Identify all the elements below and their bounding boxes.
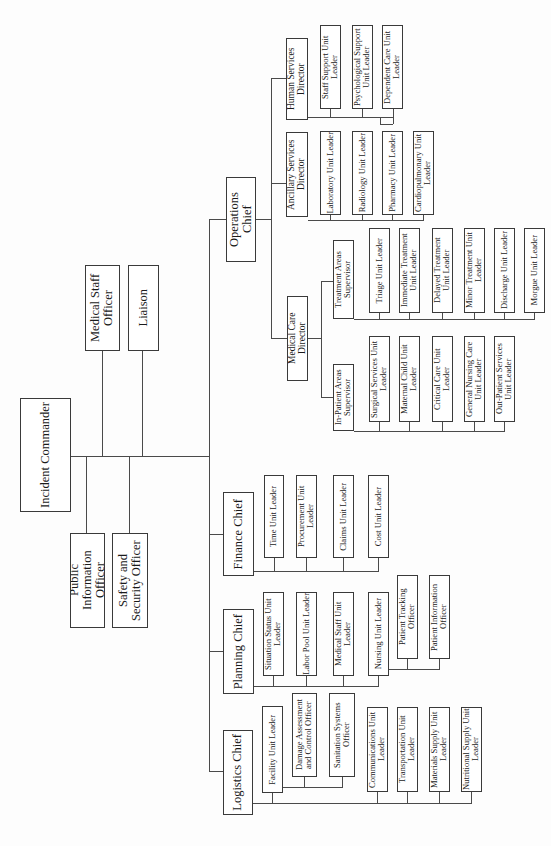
medical-care-director-box: Medical Care Director — [287, 296, 308, 381]
connector-line — [380, 124, 393, 125]
box-label: Discharge Unit Leader — [500, 231, 509, 309]
box-label: Psychological Support Unit Leader — [353, 26, 371, 108]
safety-security-officer-box: Safety and Security Officer — [112, 533, 148, 628]
in-patient-areas-supervisor-box: In-Patient Areas Supervisor — [333, 364, 354, 431]
connector-line — [380, 117, 381, 124]
connector-line — [321, 397, 333, 398]
connector-line — [354, 319, 535, 320]
box-label: Critical Care Unit Leader — [433, 337, 451, 421]
box-label: Liaison — [137, 289, 150, 327]
connector-line — [534, 313, 535, 319]
connector-line — [474, 313, 475, 319]
connector-line — [308, 220, 424, 221]
connector-line — [393, 109, 394, 124]
immediate-treatment-unit-box: Immediate Treatment Unit Leader — [399, 228, 420, 313]
connector-line — [407, 792, 408, 803]
claims-unit-box: Claims Unit Leader — [333, 475, 354, 558]
liaison-box: Liaison — [128, 265, 159, 351]
box-label: Planning Chief — [232, 614, 245, 689]
box-label: Surgical Services Unit Leader — [370, 337, 388, 421]
box-label: Patient Information Officer — [430, 576, 448, 658]
connector-line — [86, 456, 87, 533]
connector-line — [330, 109, 331, 117]
box-label: Human Services Director — [287, 39, 307, 119]
connector-line — [271, 78, 286, 79]
general-nursing-care-unit-box: General Nursing Care Unit Leader — [464, 336, 485, 422]
connector-line — [378, 558, 379, 571]
connector-line — [271, 183, 286, 184]
patient-information-officer-box: Patient Information Officer — [429, 575, 450, 659]
box-label: Maternal Child Unit Leader — [400, 337, 418, 421]
box-label: Pharmacy Unit Leader — [388, 134, 397, 212]
connector-line — [306, 676, 307, 686]
connector-line — [379, 422, 380, 431]
connector-line — [407, 659, 408, 669]
pharmacy-unit-box: Pharmacy Unit Leader — [382, 131, 403, 215]
box-label: General Nursing Care Unit Leader — [465, 337, 483, 421]
critical-care-unit-box: Critical Care Unit Leader — [432, 336, 453, 422]
connector-line — [253, 686, 379, 687]
box-label: Nutritional Supply Unit Leader — [462, 708, 480, 791]
nursing-unit-box: Nursing Unit Leader — [368, 592, 389, 676]
connector-line — [474, 422, 475, 431]
connector-line — [304, 777, 305, 787]
box-label: Transportation Unit Leader — [398, 708, 416, 791]
psychological-support-unit-box: Psychological Support Unit Leader — [352, 25, 373, 109]
box-label: Immediate Treatment Unit Leader — [400, 229, 418, 312]
discharge-unit-box: Discharge Unit Leader — [494, 228, 515, 313]
box-label: Minor Treatment Unit Leader — [465, 229, 483, 312]
medical-staff-unit-box: Medical Staff Unit Leader — [333, 592, 354, 676]
connector-line — [388, 669, 440, 670]
surgical-services-unit-box: Surgical Services Unit Leader — [369, 336, 390, 422]
public-information-officer-box: Public Information Officer — [70, 533, 105, 628]
materials-supply-unit-box: Materials Supply Unit Leader — [429, 707, 450, 792]
connector-line — [442, 422, 443, 431]
connector-line — [209, 219, 210, 772]
connector-line — [321, 281, 322, 397]
box-label: Procurement Unit Leader — [297, 476, 315, 557]
connector-line — [209, 219, 226, 220]
facility-unit-box: Facility Unit Leader — [262, 706, 283, 793]
connector-line — [255, 219, 271, 220]
connector-line — [362, 109, 363, 117]
cost-unit-box: Cost Unit Leader — [368, 475, 389, 558]
connector-line — [409, 313, 410, 319]
org-chart: Incident Commander Medical Staff Officer… — [0, 0, 551, 846]
sanitation-systems-officer-box: Sanitation Systems Officer — [329, 693, 355, 777]
box-label: Cost Unit Leader — [374, 487, 383, 546]
box-label: Communications Unit Leader — [368, 708, 386, 791]
incident-commander-box: Incident Commander — [20, 398, 71, 512]
connector-line — [342, 777, 343, 787]
box-label: Medical Care Director — [288, 297, 308, 380]
laboratory-unit-box: Laboratory Unit Leader — [320, 131, 341, 215]
connector-line — [504, 422, 505, 431]
box-label: Laboratory Unit Leader — [326, 132, 335, 214]
box-label: Dependent Care Unit Leader — [383, 26, 401, 108]
treatment-areas-supervisor-box: Treatment Areas Supervisor — [333, 240, 354, 319]
box-label: Treatment Areas Supervisor — [334, 241, 352, 318]
box-label: Finance Chief — [232, 499, 245, 569]
connector-line — [142, 350, 143, 456]
connector-line — [306, 558, 307, 571]
connector-line — [273, 676, 274, 686]
medical-staff-officer-box: Medical Staff Officer — [85, 265, 120, 351]
box-label: Situation Status Unit Leader — [264, 593, 282, 675]
connector-line — [253, 571, 379, 572]
box-label: Claims Unit Leader — [339, 483, 348, 551]
connector-line — [378, 676, 379, 686]
box-label: Materials Supply Unit Leader — [430, 708, 448, 791]
box-label: Logistics Chief — [231, 734, 244, 811]
connector-line — [129, 456, 130, 533]
connector-line — [392, 215, 393, 220]
triage-unit-box: Triage Unit Leader — [369, 228, 390, 313]
cardiopulmonary-unit-box: Cardiopulmonary Unit Leader — [413, 131, 434, 215]
box-label: Medical Staff Officer — [89, 266, 115, 350]
box-label: Medical Staff Unit Leader — [334, 593, 352, 675]
patient-tracking-officer-box: Patient Tracking Officer — [397, 575, 418, 659]
connector-line — [354, 431, 505, 432]
box-label: Operations Chief — [228, 178, 254, 261]
connector-line — [343, 676, 344, 686]
connector-line — [379, 313, 380, 319]
communications-unit-box: Communications Unit Leader — [367, 707, 388, 792]
connector-line — [209, 771, 223, 772]
